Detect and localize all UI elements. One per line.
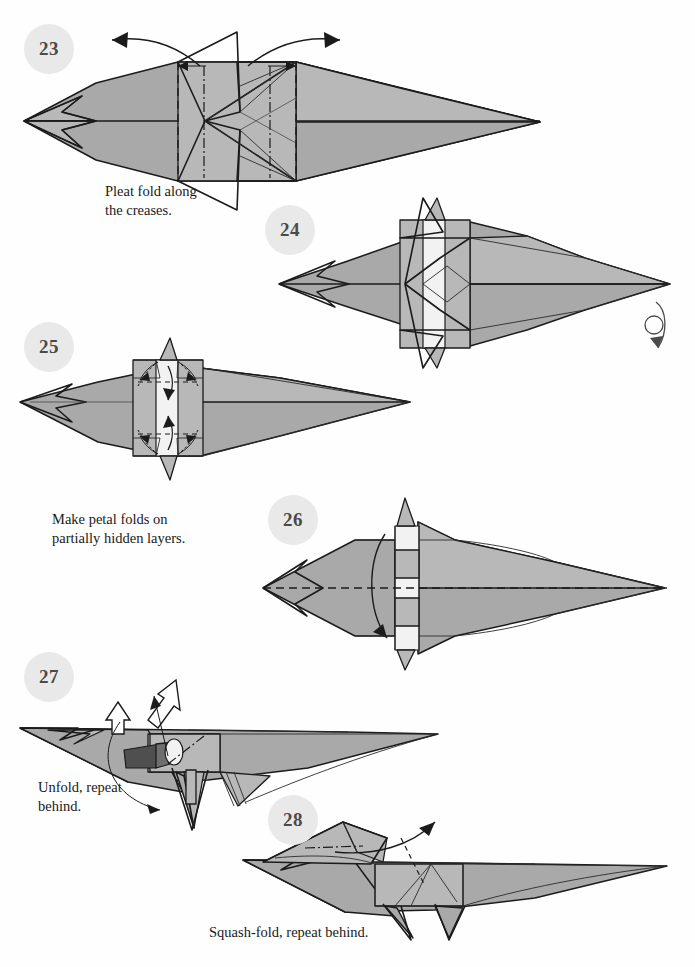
spike-top [160, 338, 177, 360]
caption-step-27: Unfold, repeat behind. [38, 778, 122, 816]
pleat-box-upper [395, 550, 419, 578]
instruction-page: 23 [0, 0, 695, 967]
step-number-28: 28 [283, 809, 303, 831]
step-number-27: 27 [39, 666, 59, 688]
spike-top [425, 198, 445, 220]
step-badge-27: 27 [24, 652, 74, 702]
diagram-step-26 [255, 492, 695, 670]
spike-top [397, 498, 415, 526]
pleat-box-lower [395, 598, 419, 626]
pleat-panel-inner [423, 220, 445, 348]
center-column [186, 770, 196, 804]
step-number-24: 24 [280, 219, 300, 241]
caption-step-25: Make petal folds on partially hidden lay… [52, 510, 185, 548]
spike-bottom [397, 650, 415, 670]
step-badge-23: 23 [24, 24, 74, 74]
pleat-arrow-left-head [112, 32, 128, 48]
step-badge-28: 28 [268, 795, 318, 845]
step-number-23: 23 [39, 38, 59, 60]
step-badge-25: 25 [24, 322, 74, 372]
pleat-arrow-right-head [324, 32, 340, 48]
step-number-26: 26 [283, 509, 303, 531]
center-box [375, 864, 463, 906]
pleat-panel [178, 62, 296, 181]
caption-step-23: Pleat fold along the creases. [105, 182, 197, 220]
paper-shape-right-upper [296, 62, 540, 122]
paper-shape-right-upper [418, 522, 665, 588]
turn-over-icon [645, 302, 665, 348]
step-badge-26: 26 [268, 495, 318, 545]
white-pocket [165, 739, 183, 765]
step-badge-24: 24 [265, 205, 315, 255]
lower-spike-right [435, 906, 463, 938]
step-number-25: 25 [39, 336, 59, 358]
spike-bottom [160, 456, 177, 480]
caption-step-28: Squash-fold, repeat behind. [209, 923, 368, 942]
diagram-step-23 [0, 18, 560, 193]
